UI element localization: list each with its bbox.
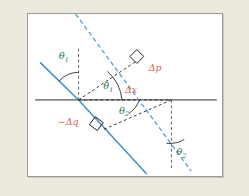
refracted-ray-line bbox=[79, 100, 147, 174]
label-theta1-lower: θ1 bbox=[103, 80, 113, 93]
refraction-diagram: θ1 θ1 θ2 θ2 Δp Δx −Δq bbox=[28, 14, 222, 176]
angle-arc-theta2-middle bbox=[129, 100, 140, 114]
angle-arc-theta2-lower-right bbox=[171, 139, 184, 143]
angle-arc-theta1-upper bbox=[59, 72, 79, 81]
label-delta-p: Δp bbox=[148, 62, 162, 73]
right-angle-marker-upper bbox=[130, 50, 144, 64]
figure-panel: θ1 θ1 θ2 θ2 Δp Δx −Δq bbox=[27, 13, 223, 177]
label-minus-delta-q: −Δq bbox=[58, 116, 79, 127]
label-theta2-middle: θ2 bbox=[119, 105, 129, 118]
label-theta2-lower-right: θ2 bbox=[176, 146, 186, 159]
label-delta-x: Δx bbox=[124, 84, 138, 95]
label-theta1-upper: θ1 bbox=[59, 50, 69, 63]
